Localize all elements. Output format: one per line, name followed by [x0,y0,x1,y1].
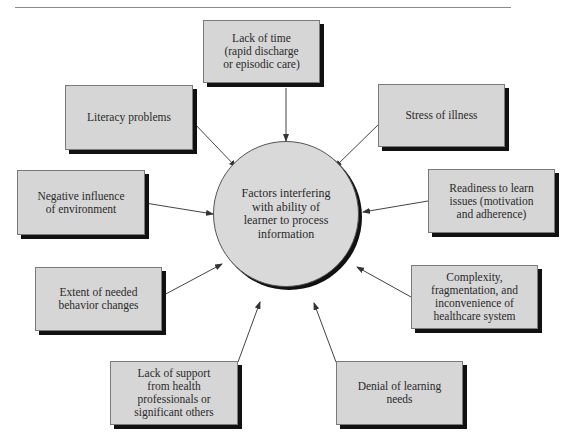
arrow-literacy [193,122,236,167]
center-node-label: Factors interfering with ability of lear… [242,187,331,241]
factor-label: Literacy problems [87,111,171,124]
factor-label: Extent of needed behavior changes [58,286,138,312]
factor-box-readiness: Readiness to learn issues (motivation an… [428,169,555,233]
factor-box-literacy: Literacy problems [65,85,193,150]
factor-label: Lack of support from health professional… [134,367,214,419]
center-node: Factors interfering with ability of lear… [213,141,359,287]
factor-label: Negative influence of environment [37,190,124,216]
arrow-negative-environment [145,203,213,214]
arrow-complexity [357,267,411,297]
factor-label: Denial of learning needs [358,380,442,406]
factor-label: Readiness to learn issues (motivation an… [449,182,533,221]
diagram-canvas: Factors interfering with ability of lear… [0,0,570,444]
arrow-stress [335,123,380,167]
factor-box-behavior-changes: Extent of needed behavior changes [35,267,162,331]
arrow-lack-of-support [238,302,260,362]
arrow-readiness [363,201,428,212]
factor-box-denial: Denial of learning needs [336,361,463,425]
factor-box-stress: Stress of illness [378,84,505,147]
factor-label: Complexity, fragmentation, and inconveni… [431,271,518,323]
factor-box-negative-environment: Negative influence of environment [17,170,145,235]
factor-box-healthcare-complexity: Complexity, fragmentation, and inconveni… [411,265,538,329]
factor-label: Lack of time (rapid discharge or episodi… [223,32,300,71]
arrow-behavior-changes [162,264,222,296]
factor-box-lack-of-support: Lack of support from health professional… [110,361,238,425]
factor-label: Stress of illness [405,109,477,122]
factor-box-lack-of-time: Lack of time (rapid discharge or episodi… [203,20,320,83]
arrow-denial [314,303,336,362]
